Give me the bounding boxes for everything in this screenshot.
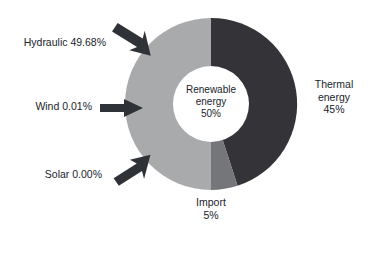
slice-label-thermal-energy: Thermal energy 45% [305, 78, 363, 116]
donut-center-label: Renewable energy 50% [174, 84, 248, 121]
chart-page: Hydraulic 49.68% Wind 0.01% Solar 0.00% … [0, 0, 379, 258]
donut-center-line3: 50% [174, 108, 248, 120]
donut-center-line1: Renewable [174, 84, 248, 96]
slice-label-thermal-line1: Thermal [305, 78, 363, 91]
donut-center-line2: energy [174, 96, 248, 108]
callout-label-solar: Solar 0.00% [24, 168, 102, 181]
slice-label-import-line1: Import [180, 196, 242, 209]
callout-label-wind: Wind 0.01% [14, 100, 92, 113]
slice-label-import: Import 5% [180, 196, 242, 221]
slice-label-thermal-line2: energy [305, 91, 363, 104]
slice-label-import-line2: 5% [180, 209, 242, 222]
slice-label-thermal-line3: 45% [305, 103, 363, 116]
callout-label-hydraulic: Hydraulic 49.68% [14, 36, 106, 49]
